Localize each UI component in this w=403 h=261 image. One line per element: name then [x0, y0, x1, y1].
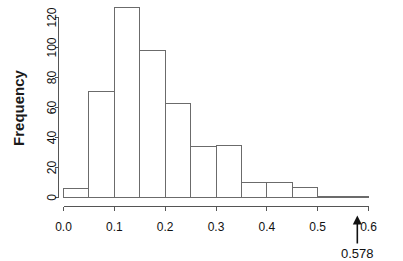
x-axis-tick-label: 0.3 [208, 220, 225, 234]
histogram-bar [241, 183, 266, 198]
x-axis-tick-label: 0.6 [360, 220, 377, 234]
histogram-figure: Frequency 0204060801001200.00.10.20.30.4… [0, 0, 403, 261]
y-axis-tick-label: 20 [45, 161, 59, 175]
x-axis-tick-label: 0.5 [309, 220, 326, 234]
y-axis-tick-label: 100 [45, 37, 59, 57]
histogram-bar [140, 51, 165, 198]
observed-value-arrow-label: 0.578 [341, 246, 374, 261]
histogram-bar [267, 183, 292, 198]
x-axis-tick-label: 0.4 [258, 220, 275, 234]
x-axis-tick-label: 0.1 [106, 220, 123, 234]
y-axis-tick-label: 40 [45, 131, 59, 145]
x-axis-tick-label: 0.2 [157, 220, 174, 234]
histogram-bar [318, 196, 343, 198]
histogram-bar [114, 7, 139, 198]
histogram-bar [165, 103, 190, 198]
histogram-bar [89, 91, 114, 198]
y-axis-tick-label: 120 [45, 7, 59, 27]
y-axis-tick-label: 80 [45, 71, 59, 85]
histogram-bar [64, 189, 89, 198]
histogram-bar [216, 145, 241, 198]
histogram-bar [292, 187, 317, 198]
y-axis-tick-label: 0 [45, 194, 59, 201]
y-axis-tick-label: 60 [45, 101, 59, 115]
histogram-bar [343, 196, 368, 198]
histogram-bar [191, 147, 216, 198]
histogram-plot: 0204060801001200.00.10.20.30.40.50.60.57… [0, 0, 403, 261]
x-axis-tick-label: 0.0 [55, 220, 72, 234]
